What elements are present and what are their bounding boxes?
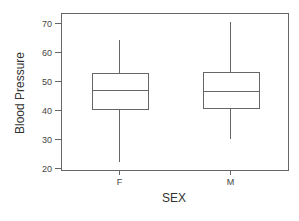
- box-f: [93, 40, 149, 162]
- y-tick-label: 50: [42, 77, 52, 87]
- x-tick-label: M: [227, 177, 235, 187]
- y-tick-label: 20: [42, 164, 52, 174]
- iqr-box: [93, 74, 149, 110]
- box-m: [204, 22, 260, 139]
- boxes-group: [93, 22, 260, 162]
- y-tick-label: 70: [42, 19, 52, 29]
- box-plot: 203040506070 FM SEX Blood Pressure: [0, 0, 299, 221]
- y-axis: 203040506070: [42, 19, 61, 174]
- x-axis-title: SEX: [162, 191, 186, 205]
- x-tick-label: F: [117, 177, 123, 187]
- y-tick-label: 60: [42, 48, 52, 58]
- y-tick-label: 30: [42, 135, 52, 145]
- y-axis-title: Blood Pressure: [13, 52, 27, 134]
- x-axis: FM: [117, 170, 235, 187]
- iqr-box: [204, 73, 260, 109]
- y-tick-label: 40: [42, 106, 52, 116]
